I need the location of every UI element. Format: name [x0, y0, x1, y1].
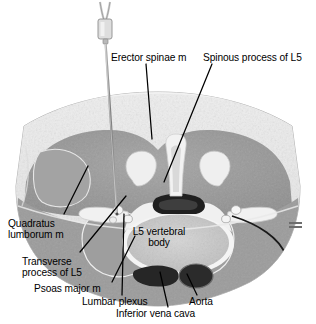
- label-quadratus-lumborum-line2: lumborum m: [8, 229, 64, 240]
- label-transverse-process-line2: process of L5: [22, 267, 82, 278]
- label-transverse-process-l5: Transverse process of L5: [22, 256, 82, 279]
- anatomy-figure: Erector spinae m Spinous process of L5 Q…: [0, 0, 316, 324]
- label-l5-vertebral-body: L5 vertebral body: [122, 226, 196, 249]
- artist-signature-mark: [289, 222, 302, 231]
- needle-hub: [98, 19, 112, 39]
- label-spinous-process-l5: Spinous process of L5: [203, 52, 302, 63]
- label-transverse-process-line1: Transverse: [22, 256, 72, 267]
- needle-tip: [116, 213, 119, 216]
- label-quadratus-lumborum: Quadratus lumborum m: [8, 218, 64, 241]
- needle-hub-collar: [103, 39, 108, 44]
- label-aorta: Aorta: [189, 296, 213, 307]
- label-erector-spinae: Erector spinae m: [111, 52, 186, 63]
- label-inferior-vena-cava: Inferior vena cava: [116, 308, 195, 319]
- label-psoas-major: Psoas major m: [34, 283, 101, 294]
- label-l5-body-line2: body: [148, 237, 170, 248]
- label-l5-body-line1: L5 vertebral: [133, 226, 186, 237]
- cauda-equina: [159, 199, 198, 210]
- label-lumbar-plexus: Lumbar plexus: [82, 296, 148, 307]
- label-quadratus-lumborum-line1: Quadratus: [8, 218, 55, 229]
